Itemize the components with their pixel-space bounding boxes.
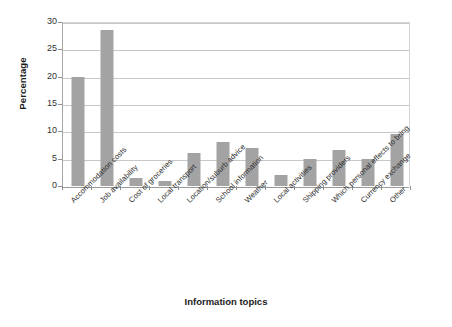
x-tick-mark [410,186,411,190]
bar-slot [121,23,150,186]
y-tick-label: 5 [31,153,57,163]
y-axis-title: Percentage [17,44,28,124]
bar-chart: Percentage 051015202530 Accommodation co… [0,0,452,327]
bar-slot [295,23,324,186]
y-tick-mark [58,77,62,78]
y-tick-label: 25 [31,43,57,53]
bar-slot [266,23,295,186]
y-tick-mark [58,104,62,105]
y-tick-mark [58,49,62,50]
y-tick-mark [58,22,62,23]
y-tick-label: 10 [31,125,57,135]
y-tick-mark [58,131,62,132]
y-tick-label: 30 [31,16,57,26]
y-tick-label: 15 [31,98,57,108]
y-tick-label: 0 [31,180,57,190]
bar-slot [63,23,92,186]
x-axis-category-labels: Accommodation costsJob availabilityCost … [0,191,452,291]
y-tick-mark [58,159,62,160]
bar[interactable] [71,77,84,186]
y-tick-label: 20 [31,71,57,81]
bar-slot [179,23,208,186]
x-tick-mark [62,186,63,190]
x-axis-title: Information topics [0,296,452,307]
